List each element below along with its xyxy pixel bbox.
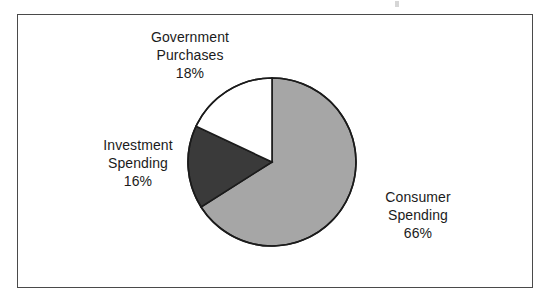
slice-label-investment-spending: Investment Spending 16% (68, 136, 208, 190)
label-line-2: Spending (68, 154, 208, 172)
label-value: 16% (68, 172, 208, 190)
label-value: 18% (110, 64, 270, 82)
label-line-1: Government (110, 28, 270, 46)
label-line-1: Investment (68, 136, 208, 154)
slice-label-consumer-spending: Consumer Spending 66% (348, 188, 488, 242)
label-line-2: Purchases (110, 46, 270, 64)
label-line-2: Spending (348, 206, 488, 224)
pie-chart-screenshot: Government Purchases 18% Investment Spen… (0, 0, 543, 298)
label-value: 66% (348, 224, 488, 242)
label-line-1: Consumer (348, 188, 488, 206)
slice-label-government-purchases: Government Purchases 18% (110, 28, 270, 82)
